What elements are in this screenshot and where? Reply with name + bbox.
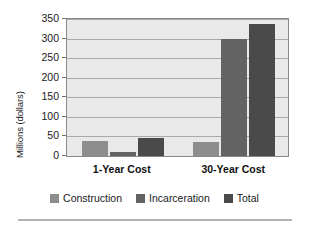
y-axis-tick-label: 350 bbox=[27, 13, 59, 23]
bar bbox=[193, 142, 219, 156]
legend-item: Incarceration bbox=[136, 192, 210, 204]
bar bbox=[249, 24, 275, 156]
y-axis-tick-label: 250 bbox=[27, 52, 59, 62]
legend-item: Total bbox=[224, 192, 259, 204]
legend-swatch-icon bbox=[50, 194, 59, 203]
legend-swatch-icon bbox=[224, 194, 233, 203]
bottom-divider bbox=[18, 219, 292, 221]
legend-label: Incarceration bbox=[149, 192, 210, 204]
legend-swatch-icon bbox=[136, 194, 145, 203]
legend-item: Construction bbox=[50, 192, 122, 204]
bar bbox=[110, 152, 136, 156]
x-axis-category-label: 30-Year Cost bbox=[173, 163, 293, 175]
y-axis-tick-label: 100 bbox=[27, 111, 59, 121]
plot-area bbox=[66, 18, 289, 157]
y-axis-tick-label: 50 bbox=[27, 130, 59, 140]
bar bbox=[138, 138, 164, 156]
chart-legend: ConstructionIncarcerationTotal bbox=[0, 192, 309, 204]
gridline bbox=[67, 19, 288, 20]
chart-figure: Millions (dollars) 050100150200250300350… bbox=[0, 0, 309, 232]
bar bbox=[221, 39, 247, 156]
legend-label: Total bbox=[237, 192, 259, 204]
y-axis-tick-label: 150 bbox=[27, 91, 59, 101]
y-axis-tick-label: 0 bbox=[27, 150, 59, 160]
bar bbox=[82, 141, 108, 156]
y-axis-tick-label: 200 bbox=[27, 72, 59, 82]
y-axis-tick-label: 300 bbox=[27, 33, 59, 43]
x-axis-category-label: 1-Year Cost bbox=[62, 163, 182, 175]
legend-label: Construction bbox=[63, 192, 122, 204]
